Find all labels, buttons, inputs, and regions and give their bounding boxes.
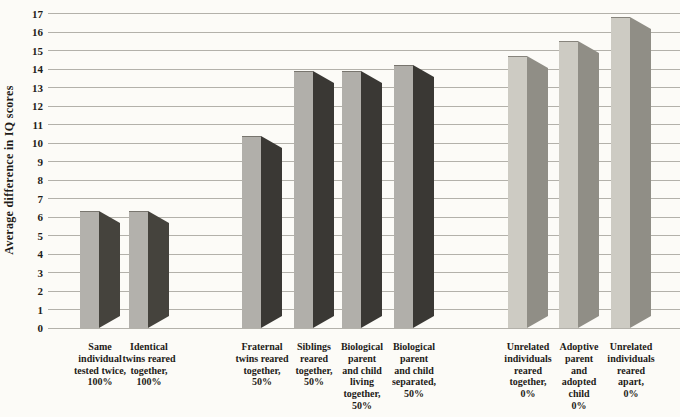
bar-front-face xyxy=(342,71,361,328)
y-tick-label: 3 xyxy=(0,266,43,280)
y-tick-label: 16 xyxy=(0,25,43,39)
x-category-label-line: apart, xyxy=(598,376,664,388)
x-category-label: Biologicalparentand childseparated,50% xyxy=(381,341,447,400)
x-category-label-line: 100% xyxy=(116,376,182,388)
x-category-label-line: 0% xyxy=(546,400,612,412)
x-category-label-line: 50% xyxy=(329,400,395,412)
x-category-label-line: parent xyxy=(381,353,447,365)
x-category-label-line: 0% xyxy=(598,388,664,400)
x-category-label-line: Biological xyxy=(381,341,447,353)
bar-side-face xyxy=(361,71,382,328)
y-tick-label: 14 xyxy=(0,62,43,76)
bar-front-face xyxy=(242,136,261,328)
x-category-label-line: 50% xyxy=(381,388,447,400)
x-category-label-line: individuals xyxy=(598,353,664,365)
bar-front-face xyxy=(80,211,99,328)
x-category-label-line: and child xyxy=(381,365,447,377)
x-category-label-line: Identical xyxy=(116,341,182,353)
bar-side-face xyxy=(148,211,169,328)
x-category-label-line: reared xyxy=(598,365,664,377)
y-tick-label: 17 xyxy=(0,7,43,21)
y-tick-label: 0 xyxy=(0,321,43,335)
x-category-label: Identicaltwins rearedtogether,100% xyxy=(116,341,182,388)
bar-front-face xyxy=(508,56,527,328)
x-category-label-line: together, xyxy=(116,365,182,377)
h-gridline xyxy=(48,32,680,33)
y-tick-label: 1 xyxy=(0,303,43,317)
bar-side-face xyxy=(527,56,548,328)
x-category-label-line: separated, xyxy=(381,376,447,388)
bar-side-face xyxy=(413,65,434,328)
bar-front-face xyxy=(394,65,413,328)
bar-front-face xyxy=(129,211,148,328)
bar-front-face xyxy=(611,17,630,328)
bar-side-face xyxy=(261,136,282,328)
bar-side-face xyxy=(313,71,334,328)
bar-side-face xyxy=(99,211,120,328)
bar-side-face xyxy=(630,17,651,328)
bar-front-face xyxy=(559,41,578,328)
bar-side-face xyxy=(578,41,599,328)
y-axis-title: Average difference in IQ scores xyxy=(2,85,17,254)
h-gridline xyxy=(48,13,680,14)
x-category-label-line: twins reared xyxy=(116,353,182,365)
bar-front-face xyxy=(294,71,313,328)
x-category-label-line: Unrelated xyxy=(598,341,664,353)
iq-difference-bar-chart: 01234567891011121314151617 Average diffe… xyxy=(0,0,680,417)
y-tick-label: 15 xyxy=(0,44,43,58)
y-tick-label: 2 xyxy=(0,284,43,298)
x-category-label: Unrelatedindividualsrearedapart,0% xyxy=(598,341,664,400)
